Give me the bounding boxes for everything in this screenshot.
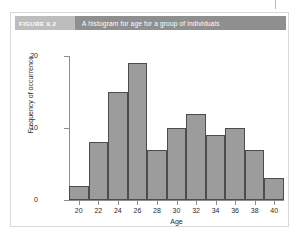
histogram-bar [245, 150, 265, 200]
figure-number-badge: FIGURE 9.2 [15, 16, 75, 30]
histogram-bar [147, 150, 167, 200]
page-corner-mark [275, 0, 276, 9]
histogram-bars [11, 31, 290, 227]
figure-title-bar: A histogram for age for a group of indiv… [75, 16, 286, 30]
histogram-bar [108, 92, 128, 200]
histogram-bar [128, 63, 148, 200]
figure-number-label: FIGURE 9.2 [19, 20, 56, 27]
histogram-bar [225, 128, 245, 200]
figure-header: FIGURE 9.2 A histogram for age for a gro… [15, 16, 286, 30]
histogram-bar [264, 178, 284, 200]
histogram-bar [69, 186, 89, 200]
figure-card: FIGURE 9.2 A histogram for age for a gro… [10, 12, 289, 227]
figure-title-text: A histogram for age for a group of indiv… [82, 20, 220, 27]
histogram-bar [167, 128, 187, 200]
x-axis-title: Age [69, 218, 284, 225]
histogram-bar [89, 142, 109, 200]
y-axis-title: Frequency of occurrence [27, 50, 34, 140]
histogram-bar [186, 114, 206, 200]
histogram-bar [206, 135, 226, 200]
histogram-plot: 01020 2022242628303234363840 Frequency o… [11, 31, 290, 227]
